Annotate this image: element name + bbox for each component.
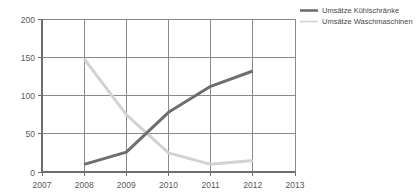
x-tick-label-2011: 2011: [202, 180, 221, 190]
x-axis-labels: 2007 2008 2009 2010 2011 2012 2013: [33, 180, 305, 190]
legend-label-waschmaschinen: Umsätze Waschmaschinen: [322, 17, 413, 26]
chart-canvas: 200 150 100 50 0 2007 2008 2009 2010 201…: [0, 0, 416, 195]
chart-legend: Umsätze Kühlschränke Umsätze Waschmaschi…: [300, 6, 413, 26]
y-axis-labels: 200 150 100 50 0: [21, 15, 35, 178]
y-tick-label-100: 100: [21, 91, 35, 101]
x-tick-label-2009: 2009: [117, 180, 136, 190]
y-tick-label-150: 150: [21, 53, 35, 63]
x-axis-tick-marks: [42, 172, 295, 176]
x-tick-label-2013: 2013: [286, 180, 305, 190]
x-tick-label-2007: 2007: [33, 180, 52, 190]
line-chart: 200 150 100 50 0 2007 2008 2009 2010 201…: [0, 0, 416, 195]
legend-label-kuehlschraenke: Umsätze Kühlschränke: [322, 6, 399, 15]
x-tick-label-2012: 2012: [243, 180, 262, 190]
y-tick-label-0: 0: [30, 168, 35, 178]
y-tick-label-50: 50: [26, 129, 36, 139]
x-tick-label-2010: 2010: [159, 180, 178, 190]
y-tick-label-200: 200: [21, 15, 35, 25]
x-tick-label-2008: 2008: [75, 180, 94, 190]
